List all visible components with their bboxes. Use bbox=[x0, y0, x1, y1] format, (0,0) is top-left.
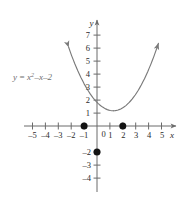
x-tick-label-4: 4 bbox=[147, 130, 152, 140]
y-tick-label--2: –2 bbox=[82, 147, 92, 157]
y-tick-label-6: 6 bbox=[86, 43, 90, 53]
y-tick-label-2: 2 bbox=[86, 95, 90, 105]
y-tick-label--3: –3 bbox=[82, 160, 92, 170]
parabola-curve-left-branch bbox=[69, 47, 114, 111]
y-tick-label-5: 5 bbox=[86, 56, 90, 66]
x-tick-label-2: 2 bbox=[121, 130, 125, 140]
marked-point-y-intercept bbox=[94, 149, 101, 156]
x-tick-label--5: –5 bbox=[27, 130, 37, 140]
x-tick-label-3: 3 bbox=[134, 130, 138, 140]
x-tick-label--2: –2 bbox=[66, 130, 76, 140]
parabola-curve-group bbox=[69, 43, 159, 110]
marked-point-root-neg1 bbox=[81, 123, 88, 130]
axes-group bbox=[24, 20, 176, 192]
graph-canvas: –5 –4 –3 –2 –1 1 2 3 4 5 7 6 5 4 3 2 1 –… bbox=[0, 0, 192, 203]
y-tick-labels-group: 7 6 5 4 3 2 1 –2 –3 –4 bbox=[82, 30, 92, 183]
x-tick-label--1: –1 bbox=[79, 130, 89, 140]
x-tick-label--4: –4 bbox=[40, 130, 50, 140]
equation-text: y=x2–x–2 bbox=[12, 72, 53, 82]
equation-annotation: y=x2–x–2 bbox=[12, 72, 53, 82]
y-tick-label--4: –4 bbox=[82, 173, 92, 183]
x-tick-label-5: 5 bbox=[160, 130, 164, 140]
equation-equals: = bbox=[20, 72, 25, 82]
x-tick-label-1: 1 bbox=[108, 130, 112, 140]
x-tick-label--3: –3 bbox=[53, 130, 63, 140]
y-tick-label-3: 3 bbox=[86, 82, 90, 92]
y-tick-label-7: 7 bbox=[86, 30, 90, 40]
y-tick-label-1: 1 bbox=[86, 108, 90, 118]
x-tick-labels-group: –5 –4 –3 –2 –1 1 2 3 4 5 bbox=[27, 130, 164, 140]
origin-label: 0 bbox=[102, 129, 106, 139]
equation-lhs: y bbox=[12, 72, 17, 82]
y-axis-label: y bbox=[89, 18, 94, 28]
marked-point-root-2 bbox=[119, 123, 126, 130]
x-axis-label: x bbox=[169, 130, 174, 140]
parabola-graph-figure: –5 –4 –3 –2 –1 1 2 3 4 5 7 6 5 4 3 2 1 –… bbox=[0, 0, 192, 203]
parabola-curve-right-branch bbox=[114, 43, 159, 110]
y-tick-label-4: 4 bbox=[86, 69, 91, 79]
equation-rest: –x–2 bbox=[34, 72, 53, 82]
